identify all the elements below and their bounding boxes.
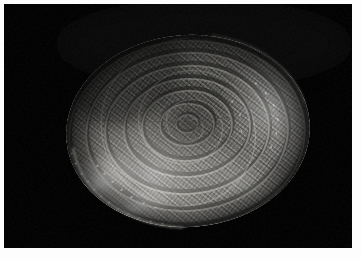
basket-photograph xyxy=(4,4,352,248)
photo-frame: Overhead angled photograph of a circular… xyxy=(0,0,362,259)
photo-grain-overlay xyxy=(4,4,352,248)
image-alt-text: Overhead angled photograph of a circular… xyxy=(0,0,1,1)
photo-image-area xyxy=(4,4,352,248)
